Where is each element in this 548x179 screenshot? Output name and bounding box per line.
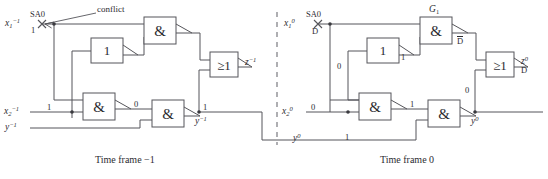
and-gate-mid-out-bubble-right	[391, 100, 407, 109]
or-symbol-left: ≥1	[217, 58, 231, 73]
inverter-symbol-right: 1	[380, 43, 387, 58]
output-z-sup-right: 0	[525, 55, 528, 62]
value-or-in2-right: 0	[465, 86, 469, 95]
and-gate-top-out-bubble-left	[176, 24, 192, 33]
value-x2-left: 1	[47, 103, 51, 112]
gate-label-g1: G1	[429, 5, 439, 15]
input-label-x1-right: x10	[284, 18, 295, 29]
and-gate-mid-out-bubble-left	[115, 100, 131, 109]
and-symbol-top-left: &	[154, 23, 166, 39]
output-label-y-left: y−1	[195, 116, 207, 127]
input-label-x1-left: x1−1	[5, 18, 20, 29]
gate-g1-sub: 1	[436, 8, 439, 15]
input-label-x2-left: x2−1	[4, 106, 19, 117]
input-x2-sup-left: −1	[11, 105, 19, 112]
value-z-right: D	[521, 66, 527, 75]
value-x1-left: 1	[31, 26, 35, 35]
output-y-sup-left: −1	[199, 115, 207, 122]
value-andmid-out-left: 0	[134, 100, 138, 109]
wire-ym1-out-left	[200, 112, 285, 140]
input-x1-sup-right: 0	[291, 17, 294, 24]
input-x2-sup-right: 0	[289, 105, 292, 112]
and-symbol-low-right: &	[438, 106, 450, 122]
input-x1-sup-left: −1	[12, 17, 20, 24]
wire-inv-feedback-right	[348, 51, 359, 100]
value-andtop-out-right: D	[457, 36, 463, 46]
input-y-sup-right: 0	[297, 132, 300, 139]
output-label-z-left: z−1	[245, 57, 256, 68]
wire-y0-in-right	[285, 120, 428, 140]
value-dbar-text: D	[457, 36, 463, 46]
caption-left-frame: Time frame −1	[95, 155, 155, 165]
and-symbol-top-right: &	[430, 23, 442, 39]
input-y-sup-left: −1	[9, 121, 17, 128]
inverter-symbol-left: 1	[104, 43, 111, 58]
caption-right-frame: Time frame 0	[380, 155, 434, 165]
and-symbol-mid-right: &	[369, 99, 381, 115]
junction-x2-right	[346, 110, 350, 114]
sa0-label-left: SA0	[30, 10, 45, 19]
input-label-x2-right: x20	[282, 106, 293, 117]
sa0-label-right: SA0	[306, 10, 321, 19]
output-y-sup-right: 0	[475, 115, 478, 122]
value-x1-right: D	[312, 27, 318, 36]
wire-ym1-in-left	[30, 120, 152, 128]
value-x2-right: 0	[311, 103, 315, 112]
wire-andtop-out-left	[192, 33, 210, 60]
junction-y-right	[473, 110, 477, 114]
value-inv-in-right: 0	[337, 62, 341, 71]
output-z-sup-left: −1	[249, 56, 257, 63]
gate-g1-base: G	[429, 4, 436, 14]
junction-x1-left	[52, 22, 56, 26]
wire-andtop-out-right	[468, 33, 486, 60]
input-label-y-left: y−1	[5, 122, 17, 133]
figure-canvas: 1 & & & ≥1 1 & & & ≥1 conflict SA0 x1−1 …	[0, 0, 548, 179]
value-y-feedback-left: 1	[203, 103, 207, 112]
value-andmid-out-right: 1	[410, 100, 414, 109]
output-label-y-right: y0	[471, 116, 478, 127]
value-y0-in-right: 1	[345, 133, 349, 142]
value-inv-out-right: 1	[401, 53, 405, 62]
junction-y-left	[197, 110, 201, 114]
junction-x2-left	[70, 110, 74, 114]
junction-x1-right	[328, 22, 332, 26]
or-symbol-right: ≥1	[493, 58, 507, 73]
inverter-out-bubble-left	[123, 45, 138, 55]
and-symbol-mid-left: &	[93, 99, 105, 115]
input-label-y-right: y0	[293, 133, 300, 144]
and-symbol-low-left: &	[162, 106, 174, 122]
conflict-label: conflict	[97, 5, 125, 14]
wire-inv-out-right	[414, 37, 420, 55]
and-gate-top-out-bubble-right	[452, 24, 468, 33]
wire-inv-out-left	[138, 37, 144, 55]
